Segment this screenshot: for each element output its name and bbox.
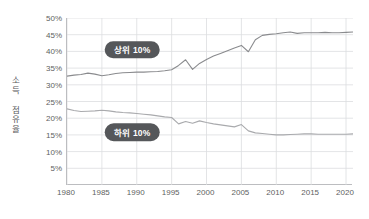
series-label-top-decile: 상위 10%	[105, 41, 160, 59]
y-tick-label: 35%	[16, 64, 62, 73]
x-tick-label: 2005	[231, 188, 249, 197]
x-axis-tick-labels: 198019851990199520002005201020152020	[66, 188, 352, 208]
x-tick-label: 1985	[92, 188, 110, 197]
y-tick-label: 50%	[16, 14, 62, 23]
y-tick-label: 10%	[16, 147, 62, 156]
series-label-bottom-decile: 하위 10%	[105, 123, 160, 141]
y-tick-label: 20%	[16, 114, 62, 123]
y-tick-label: 45%	[16, 30, 62, 39]
y-tick-label: 40%	[16, 47, 62, 56]
x-tick-label: 1980	[57, 188, 75, 197]
y-tick-label: 30%	[16, 80, 62, 89]
x-tick-label: 2015	[301, 188, 319, 197]
x-tick-label: 1990	[127, 188, 145, 197]
y-axis-tick-labels: 5%10%15%20%25%30%35%40%45%50%	[14, 0, 62, 219]
y-tick-label: 15%	[16, 130, 62, 139]
y-tick-label: 25%	[16, 97, 62, 106]
x-tick-label: 2020	[336, 188, 354, 197]
x-tick-label: 2010	[266, 188, 284, 197]
x-tick-label: 1995	[162, 188, 180, 197]
x-tick-label: 2000	[197, 188, 215, 197]
y-tick-label: 5%	[16, 164, 62, 173]
income-share-line-chart: 소득 점유율 5%10%15%20%25%30%35%40%45%50% 198…	[0, 0, 369, 219]
